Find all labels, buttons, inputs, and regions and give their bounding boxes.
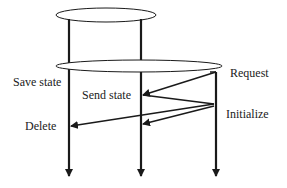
label-initialize: Initialize	[226, 108, 269, 120]
label-request: Request	[230, 67, 269, 79]
arrow-initialize	[143, 95, 214, 104]
arrow-send-state	[143, 72, 216, 95]
sequence-diagram	[0, 0, 287, 188]
wide-group-ellipse	[56, 60, 222, 72]
arrow-delete	[71, 104, 214, 126]
label-delete: Delete	[25, 120, 56, 132]
label-send-state: Send state	[82, 89, 131, 101]
arrow-to-middle	[143, 106, 214, 124]
label-save-state: Save state	[13, 76, 61, 88]
